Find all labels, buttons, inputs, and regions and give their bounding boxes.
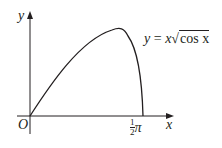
- curve: [30, 28, 143, 116]
- eq-radicand: cos x: [179, 30, 209, 46]
- pi-symbol: π: [135, 120, 142, 135]
- graph: [0, 0, 222, 148]
- x-axis-label: x: [166, 118, 172, 132]
- x-intercept-label: 1 2 π: [130, 118, 142, 137]
- curve-equation: y = x√cos x: [144, 32, 209, 46]
- y-axis-label: y: [18, 9, 24, 23]
- sqrt-icon: √: [171, 31, 179, 46]
- origin-label: O: [18, 118, 28, 132]
- y-axis-arrow-icon: [27, 11, 33, 19]
- eq-equals: =: [150, 31, 165, 46]
